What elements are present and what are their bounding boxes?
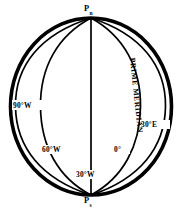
- globe-diagram-canvas: P n P s 90°W 60°W 30°W 0° 30°E PRIME MER…: [0, 0, 181, 209]
- meridian-label-60w: 60°W: [42, 145, 61, 154]
- meridian-label-30w: 30°W: [76, 170, 95, 179]
- meridian-label-0: 0°: [114, 145, 121, 154]
- south-pole-symbol: P: [84, 196, 89, 205]
- meridian-label-90w: 90°W: [13, 101, 32, 110]
- north-pole-symbol: P: [84, 4, 89, 13]
- globe-meridians-figure: P n P s 90°W 60°W 30°W 0° 30°E PRIME MER…: [0, 0, 181, 209]
